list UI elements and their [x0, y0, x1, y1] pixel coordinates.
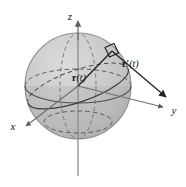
sphere-vector-diagram: z y x r(t) r′(t): [0, 0, 186, 187]
x-axis-label: x: [10, 120, 16, 132]
position-vector-label-arg: (t): [76, 72, 86, 84]
velocity-vector-label-arg: (t): [129, 58, 139, 70]
y-axis-label: y: [171, 104, 177, 116]
velocity-vector-label: r′(t): [122, 58, 139, 70]
figure-container: z y x r(t) r′(t): [0, 0, 186, 187]
position-vector-label: r(t): [72, 72, 87, 84]
z-axis-label: z: [67, 10, 73, 22]
